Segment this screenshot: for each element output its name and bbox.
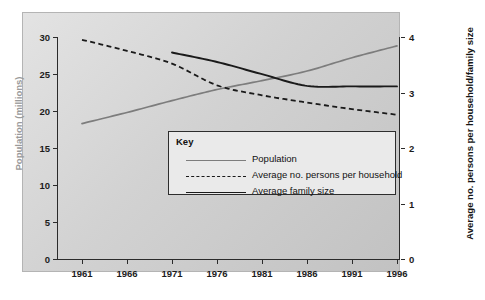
legend-label-avg-persons-per-household: Average no. persons per household bbox=[252, 169, 402, 180]
legend-label-average-family-size: Average family size bbox=[252, 185, 334, 196]
series-population bbox=[82, 46, 397, 124]
solid-black-line-swatch-icon bbox=[186, 192, 246, 193]
legend-item-avg-persons-per-household: Average no. persons per household bbox=[176, 170, 390, 184]
legend-item-average-family-size: Average family size bbox=[176, 186, 390, 200]
series-average-family-size bbox=[172, 53, 397, 87]
legend-item-population: Population bbox=[176, 154, 390, 168]
legend-title: Key bbox=[176, 136, 193, 147]
chart-figure: 30 25 20 15 10 5 0 4 3 2 1 0 1961 1966 1… bbox=[0, 0, 485, 300]
solid-grey-line-swatch-icon bbox=[186, 160, 246, 161]
series-avg-persons-per-household bbox=[82, 40, 397, 115]
legend-label-population: Population bbox=[252, 153, 297, 164]
dashed-black-line-swatch-icon bbox=[186, 176, 246, 177]
legend-box: Key Population Average no. persons per h… bbox=[168, 131, 396, 195]
